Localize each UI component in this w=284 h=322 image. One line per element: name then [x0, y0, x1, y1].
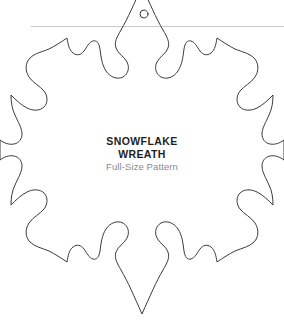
caption-title-line-1: SNOWFLAKE — [0, 135, 284, 148]
caption-subtitle: Full-Size Pattern — [0, 160, 284, 174]
caption-title-line-2: WREATH — [0, 148, 284, 161]
pattern-caption: SNOWFLAKE WREATH Full-Size Pattern — [0, 135, 284, 174]
pattern-page: f retty g and SNOWFLAKE WREATH Full-Size… — [0, 0, 284, 322]
hanging-hole-icon — [140, 10, 148, 18]
